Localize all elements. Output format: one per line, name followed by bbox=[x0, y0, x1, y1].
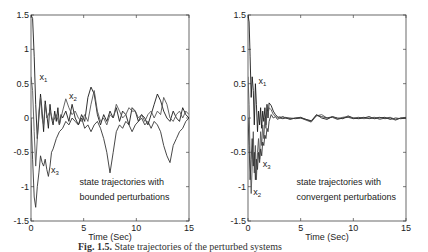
left-annotation-line: state trajectories with bbox=[79, 177, 164, 187]
left-xtick-label: 10 bbox=[131, 223, 141, 233]
right-ytick-label: 0 bbox=[241, 113, 246, 123]
right-chart-panel: 0510151.510.50-0.5-1-1.5Time (Sec)x1x3x2… bbox=[230, 10, 411, 242]
right-label-x1: x1 bbox=[259, 76, 268, 87]
right-ytick-label: -1.5 bbox=[230, 216, 246, 226]
left-label-x3: x3 bbox=[51, 165, 60, 176]
right-xtick-label: 10 bbox=[348, 223, 358, 233]
right-ytick-label: -1 bbox=[238, 182, 246, 192]
right-ytick-label: 1 bbox=[241, 44, 246, 54]
left-chart-panel: 0510151.510.50-0.5-1-1.5Time (Sec)x1x2x3… bbox=[13, 10, 194, 242]
right-label-x2: x2 bbox=[253, 187, 262, 198]
right-label-x3: x3 bbox=[263, 159, 272, 170]
left-series-x2 bbox=[31, 77, 189, 166]
left-ytick-label: -1 bbox=[21, 182, 29, 192]
right-ytick-label: -0.5 bbox=[230, 147, 246, 157]
left-annotation-line: bounded perturbations bbox=[79, 192, 170, 202]
left-label-x1: x1 bbox=[39, 72, 48, 83]
left-xtick-label: 15 bbox=[184, 223, 194, 233]
right-series-group bbox=[248, 15, 406, 194]
left-ytick-label: -1.5 bbox=[13, 216, 29, 226]
right-xtick-label: 5 bbox=[298, 223, 303, 233]
left-label-x2: x2 bbox=[69, 91, 78, 102]
caption-prefix: Fig. 1.5. bbox=[78, 241, 112, 252]
left-ytick-label: 0 bbox=[24, 113, 29, 123]
left-xtick-label: 0 bbox=[28, 223, 33, 233]
right-series-x2 bbox=[248, 77, 406, 194]
right-xtick-label: 15 bbox=[401, 223, 411, 233]
right-series-x1 bbox=[248, 15, 406, 132]
left-ytick-label: 1.5 bbox=[16, 10, 29, 20]
right-annotation-line: convergent perturbations bbox=[296, 192, 396, 202]
right-x-axis-label: Time (Sec) bbox=[305, 232, 349, 242]
right-annotation-line: state trajectories with bbox=[296, 177, 381, 187]
left-ytick-label: 0.5 bbox=[16, 79, 29, 89]
left-xtick-label: 5 bbox=[81, 223, 86, 233]
right-xtick-label: 0 bbox=[245, 223, 250, 233]
right-series-x3 bbox=[248, 115, 406, 180]
right-ytick-label: 1.5 bbox=[233, 10, 246, 20]
left-series-x1 bbox=[31, 15, 189, 139]
left-ytick-label: -0.5 bbox=[13, 147, 29, 157]
left-ytick-label: 1 bbox=[24, 44, 29, 54]
figure-caption: Fig. 1.5. State trajectories of the pert… bbox=[78, 241, 282, 252]
caption-text: State trajectories of the perturbed syst… bbox=[114, 241, 281, 252]
right-ytick-label: 0.5 bbox=[233, 79, 246, 89]
